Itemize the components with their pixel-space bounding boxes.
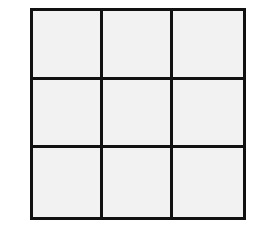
three-by-three-grid xyxy=(30,8,246,220)
grid-cell-r3-c3 xyxy=(173,148,243,217)
grid-cell-r1-c2 xyxy=(103,11,173,80)
grid-cell-r3-c1 xyxy=(33,148,103,217)
grid-cell-r2-c3 xyxy=(173,80,243,149)
grid-cell-r2-c1 xyxy=(33,80,103,149)
grid-cell-r2-c2 xyxy=(103,80,173,149)
canvas xyxy=(0,0,260,237)
grid-cell-r1-c3 xyxy=(173,11,243,80)
grid-cell-r3-c2 xyxy=(103,148,173,217)
grid-cell-r1-c1 xyxy=(33,11,103,80)
